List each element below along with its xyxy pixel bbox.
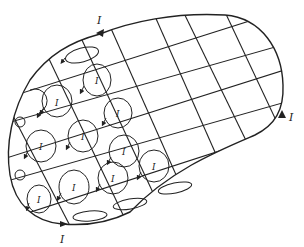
loop-current-label: I — [94, 76, 99, 86]
grid-lines — [0, 5, 300, 245]
current-loop-grid-diagram: I I I I I I I I I I I I I — [0, 0, 304, 247]
arrow-icon — [60, 221, 68, 227]
loop-current-label: I — [151, 162, 156, 172]
current-label: I — [59, 233, 65, 246]
arrow-icon — [96, 29, 104, 37]
loop-current-label: I — [38, 142, 43, 152]
loop-current-label: I — [115, 109, 120, 119]
loop-current-label: I — [36, 195, 41, 205]
current-label: I — [96, 14, 102, 27]
small-current-loops — [15, 44, 193, 223]
loop-current-label: I — [110, 174, 115, 184]
current-label: I — [288, 111, 294, 124]
loop-current-label: I — [80, 132, 85, 142]
loop-labels: I I I I I I I I I I — [36, 76, 156, 205]
loop-current-label: I — [121, 147, 126, 157]
loop-current-label: I — [71, 183, 76, 193]
boundary-arrows — [60, 29, 286, 227]
loop-current-label: I — [54, 98, 59, 108]
